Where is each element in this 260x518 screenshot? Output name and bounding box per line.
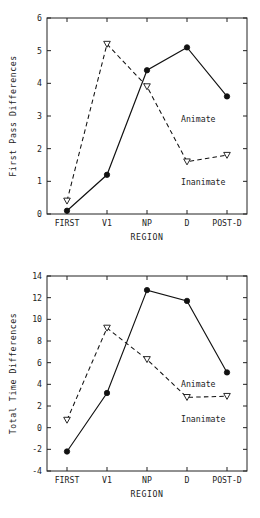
data-point-marker-circle (184, 45, 189, 50)
data-point-marker-circle (104, 390, 109, 395)
x-axis-tick-label: FIRST (55, 218, 80, 228)
y-axis-tick-label: 2 (37, 144, 42, 154)
x-axis-tick-label: POST-D (212, 475, 242, 485)
y-axis-tick-label: -2 (32, 444, 42, 454)
x-axis-tick-label: NP (142, 475, 152, 485)
y-axis-tick-label: 14 (32, 271, 42, 281)
x-axis-tick-label: V1 (102, 475, 112, 485)
data-point-marker-circle (144, 68, 149, 73)
y-axis-tick-label: 5 (37, 46, 42, 56)
y-axis-tick-label: 4 (37, 78, 42, 88)
series-label-inanimate: Inanimate (181, 414, 225, 424)
total-time-differences-chart: -4-202468101214FIRSTV1NPDPOST-DREGIONTot… (0, 259, 260, 518)
data-point-marker-triangle (224, 152, 231, 158)
data-point-marker-triangle (184, 159, 191, 165)
x-axis-tick-label: NP (142, 218, 152, 228)
x-axis-tick-label: FIRST (55, 475, 80, 485)
data-point-marker-circle (64, 208, 69, 213)
y-axis-tick-label: 6 (37, 358, 42, 368)
x-axis-title: REGION (130, 232, 163, 242)
first-pass-differences-chart: 0123456FIRSTV1NPDPOST-DREGIONFirst Pass … (0, 0, 260, 259)
data-point-marker-triangle (64, 417, 71, 423)
y-axis-tick-label: 0 (37, 423, 42, 433)
data-point-marker-triangle (64, 198, 71, 204)
y-axis-tick-label: 0 (37, 209, 42, 219)
data-point-marker-circle (64, 449, 69, 454)
x-axis-tick-label: D (185, 218, 190, 228)
x-axis-tick-label: V1 (102, 218, 112, 228)
y-axis-tick-label: 8 (37, 336, 42, 346)
y-axis-tick-label: -4 (32, 466, 42, 476)
y-axis-tick-label: 10 (32, 314, 42, 324)
chart-panel-first-pass: 0123456FIRSTV1NPDPOST-DREGIONFirst Pass … (0, 0, 260, 259)
y-axis-tick-label: 2 (37, 401, 42, 411)
y-axis-title: Total Time Differences (8, 313, 18, 435)
y-axis-tick-label: 1 (37, 176, 42, 186)
x-axis-tick-label: D (185, 475, 190, 485)
y-axis-tick-label: 3 (37, 111, 42, 121)
series-line-animate (67, 290, 227, 451)
series-line-inanimate (67, 328, 227, 420)
series-label-animate: Animate (181, 379, 216, 389)
data-point-marker-triangle (144, 84, 151, 90)
data-point-marker-circle (224, 370, 229, 375)
chart-panel-total-time: -4-202468101214FIRSTV1NPDPOST-DREGIONTot… (0, 259, 260, 518)
x-axis-tick-label: POST-D (212, 218, 242, 228)
data-point-marker-circle (104, 172, 109, 177)
y-axis-tick-label: 6 (37, 13, 42, 23)
y-axis-tick-label: 12 (32, 293, 42, 303)
x-axis-title: REGION (130, 489, 163, 499)
data-point-marker-circle (184, 298, 189, 303)
data-point-marker-circle (224, 94, 229, 99)
series-label-animate: Animate (181, 114, 216, 124)
y-axis-tick-label: 4 (37, 379, 42, 389)
data-point-marker-circle (144, 287, 149, 292)
y-axis-title: First Pass Differences (8, 55, 18, 177)
series-label-inanimate: Inanimate (181, 177, 225, 187)
data-point-marker-triangle (224, 393, 231, 399)
